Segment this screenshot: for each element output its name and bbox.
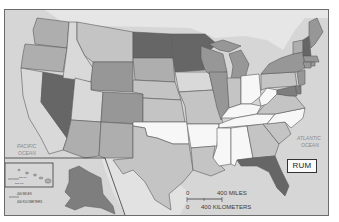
alaska-scale-bar: 400 MILES 400 KILOMETERS	[9, 192, 42, 204]
state-in[interactable]	[227, 78, 241, 108]
hawaii-inset-frame	[5, 163, 53, 187]
state-ks[interactable]	[143, 98, 185, 122]
state-ri[interactable]	[311, 62, 315, 66]
state-vt[interactable]	[293, 40, 303, 54]
us-map-svg: PACIFIC OCEAN ATLANTIC OCEAN 0 400 MILES…	[5, 10, 328, 215]
state-nd[interactable]	[133, 32, 173, 58]
map-title-label: RUM	[287, 159, 317, 173]
state-ny[interactable]	[261, 52, 305, 74]
state-oh[interactable]	[241, 74, 261, 104]
state-md[interactable]	[277, 86, 297, 96]
atlantic-ocean-label-2: OCEAN	[301, 142, 319, 148]
state-sd[interactable]	[133, 58, 175, 82]
state-ar[interactable]	[187, 124, 219, 148]
state-nj[interactable]	[297, 70, 305, 86]
atlantic-ocean-label-1: ATLANTIC	[296, 135, 321, 141]
hawaii-scale-km: 200 KM	[15, 182, 24, 185]
scale-km-zero: 0	[186, 204, 190, 210]
state-nm[interactable]	[99, 122, 133, 158]
state-wa[interactable]	[33, 18, 69, 48]
state-mt[interactable]	[77, 22, 133, 62]
pacific-ocean-label-2: OCEAN	[18, 150, 36, 156]
scale-km-label: 400 KILOMETERS	[201, 204, 251, 210]
hawaii-scale-bar: 200 MI 200 KM	[8, 176, 27, 185]
scale-bar: 0 400 MILES 0 400 KILOMETERS	[186, 190, 251, 210]
state-me[interactable]	[309, 18, 323, 48]
hawaii-scale-miles: 200 MI	[19, 176, 27, 179]
states-layer	[21, 18, 323, 210]
choropleth-map: PACIFIC OCEAN ATLANTIC OCEAN 0 400 MILES…	[4, 9, 329, 216]
scale-miles-label: 400 MILES	[217, 190, 247, 196]
state-wy[interactable]	[91, 62, 133, 92]
state-or[interactable]	[21, 44, 67, 72]
alaska-scale-km: 400 KILOMETERS	[17, 200, 42, 204]
alaska-scale-miles: 400 MILES	[17, 192, 32, 196]
state-co[interactable]	[101, 92, 143, 124]
pacific-ocean-label-1: PACIFIC	[17, 143, 37, 149]
state-ma[interactable]	[303, 56, 319, 62]
state-ia[interactable]	[175, 72, 213, 92]
